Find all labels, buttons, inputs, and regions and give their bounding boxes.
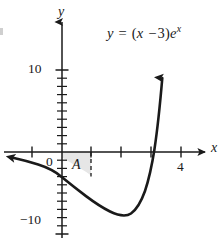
shaded-region-label: A xyxy=(72,158,81,172)
y-axis xyxy=(56,22,69,238)
origin-label: 0 xyxy=(46,155,53,169)
equation-constant: 3 xyxy=(158,25,165,41)
x-tick-label-4: 4 xyxy=(177,160,184,174)
function-curve xyxy=(14,78,162,216)
equation-label: y = (x −3)ex xyxy=(107,26,181,41)
x-axis xyxy=(4,147,205,158)
y-tick-label-minus-10: −10 xyxy=(20,213,41,227)
equation-exponent: x xyxy=(177,23,182,34)
math-graph-figure: y = (x −3)ex y x 10 −10 0 4 A xyxy=(0,0,219,238)
equation-equals: = xyxy=(117,25,127,41)
y-tick-label-10: 10 xyxy=(28,62,42,76)
equation-var: x xyxy=(137,25,144,41)
equation-base: e xyxy=(170,25,177,41)
y-axis-label: y xyxy=(58,5,64,19)
x-axis-label: x xyxy=(211,141,217,155)
equation-lhs: y xyxy=(107,25,114,41)
equation-minus: − xyxy=(147,25,157,41)
